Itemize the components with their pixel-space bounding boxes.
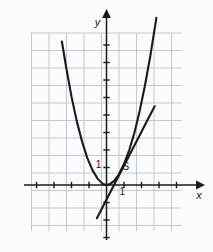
graph-figure: 11Sxy xyxy=(0,0,213,252)
y-axis-arrow-icon xyxy=(102,9,111,18)
x-axis-label: x xyxy=(195,189,202,201)
x-axis-one: 1 xyxy=(120,186,126,197)
y-axis-one: 1 xyxy=(96,159,102,170)
y-axis-label: y xyxy=(94,16,102,28)
series-parabola xyxy=(62,18,157,185)
point-s-label: S xyxy=(122,161,129,172)
coordinate-plot: 11Sxy xyxy=(0,0,213,252)
